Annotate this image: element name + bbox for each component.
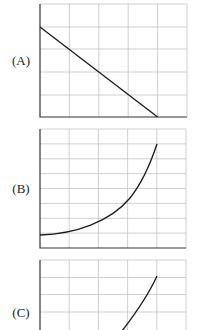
- graph-c-plot: [0, 0, 199, 330]
- graph-panel-c: (C): [0, 0, 199, 330]
- graph-c-grid: [40, 260, 186, 330]
